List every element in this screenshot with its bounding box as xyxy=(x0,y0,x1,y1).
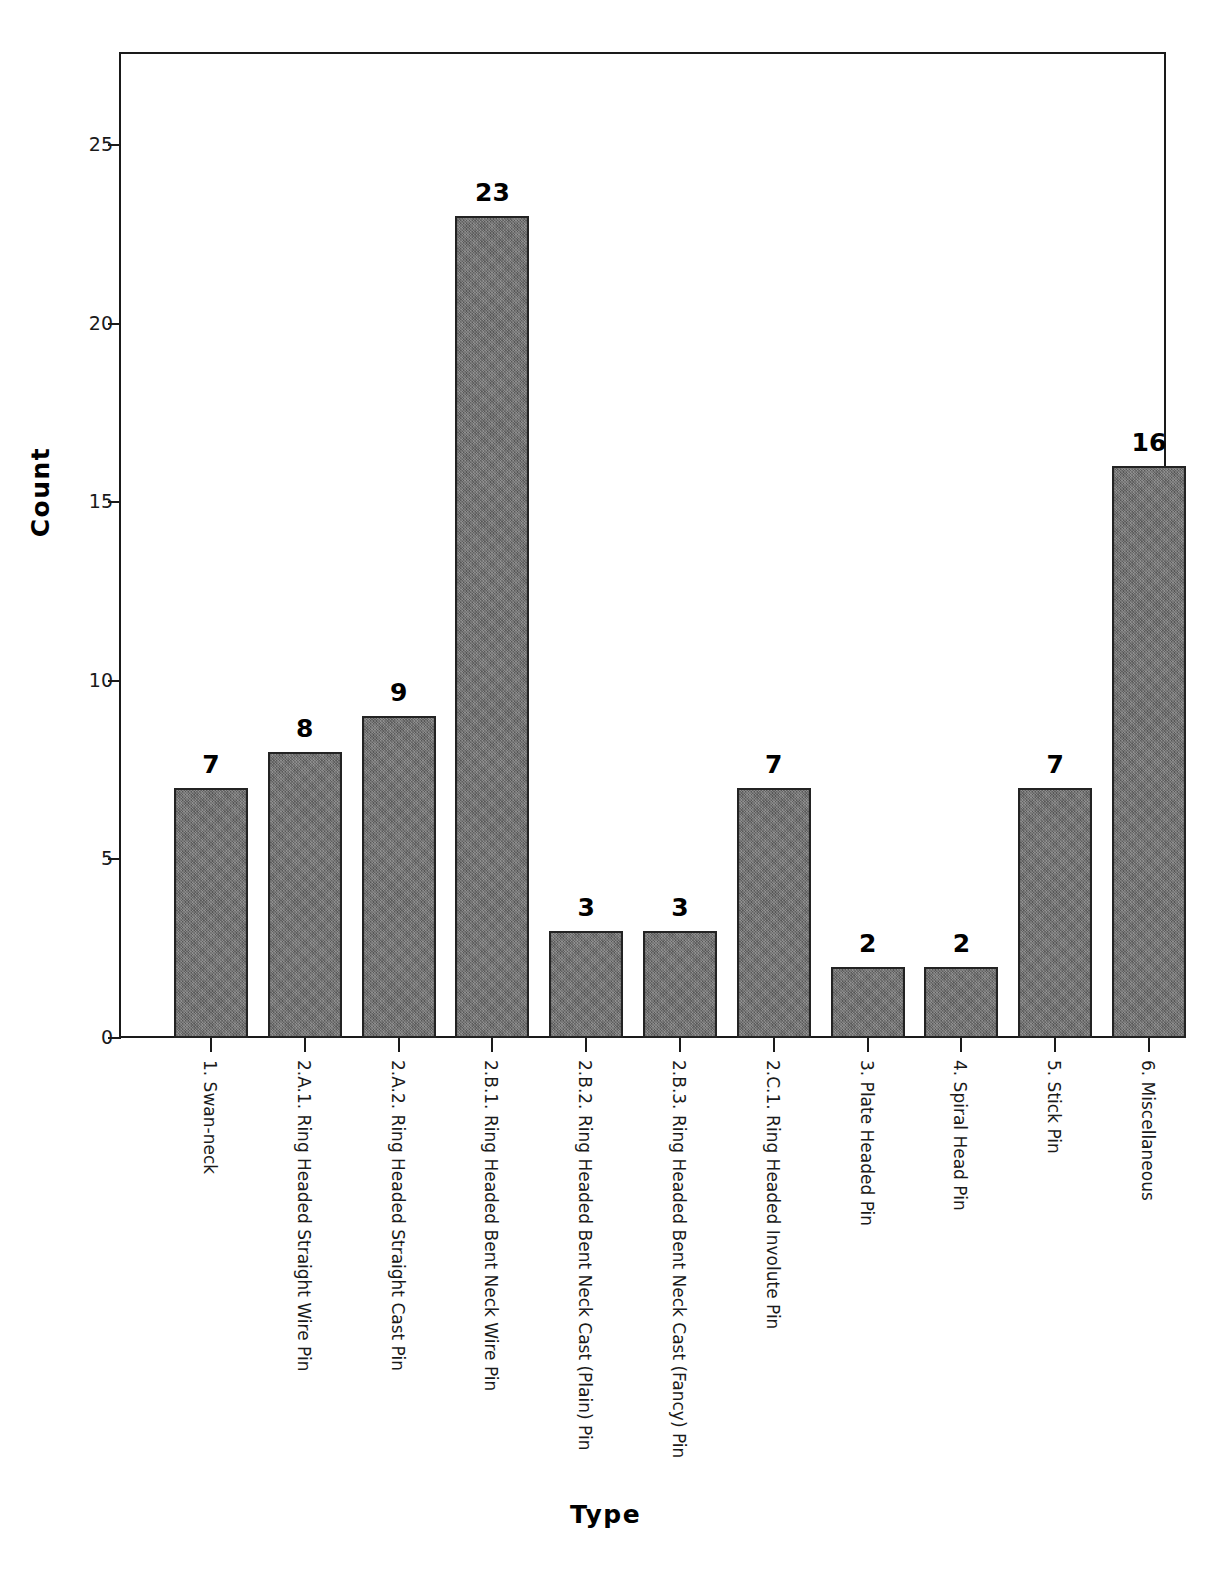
x-axis-category-label: 2.B.2. Ring Headed Bent Neck Cast (Plain… xyxy=(576,1060,593,1450)
y-axis-tick-label: 20 xyxy=(53,314,113,333)
bar[interactable] xyxy=(737,788,811,1038)
x-axis-category-label: 2.A.2. Ring Headed Straight Cast Pin xyxy=(389,1060,406,1371)
bar[interactable] xyxy=(174,788,248,1038)
x-axis-title: Type xyxy=(0,1500,1211,1529)
bar[interactable] xyxy=(643,931,717,1038)
bar-value-label: 7 xyxy=(1005,752,1105,777)
bar-value-label: 8 xyxy=(255,716,355,741)
bar-value-label: 7 xyxy=(161,752,261,777)
bar-value-label: 3 xyxy=(630,895,730,920)
x-axis-category-label: 1. Swan-neck xyxy=(201,1060,218,1174)
x-axis-category-label: 6. Miscellaneous xyxy=(1139,1060,1156,1201)
x-axis-tick xyxy=(585,1038,587,1052)
bar[interactable] xyxy=(924,967,998,1038)
bar[interactable] xyxy=(268,752,342,1038)
x-axis-category-label: 2.B.3. Ring Headed Bent Neck Cast (Fancy… xyxy=(670,1060,687,1458)
bar[interactable] xyxy=(1112,466,1186,1038)
bar[interactable] xyxy=(549,931,623,1038)
x-axis-tick xyxy=(304,1038,306,1052)
y-axis-tick-label: 5 xyxy=(53,849,113,868)
x-axis-tick xyxy=(960,1038,962,1052)
x-axis-tick xyxy=(210,1038,212,1052)
bar[interactable] xyxy=(455,216,529,1038)
chart-page: Count 0510152025 7892333722716 1. Swan-n… xyxy=(0,0,1211,1593)
x-axis-tick xyxy=(1148,1038,1150,1052)
bar[interactable] xyxy=(831,967,905,1038)
bar-value-label: 23 xyxy=(442,180,542,205)
x-axis-tick xyxy=(867,1038,869,1052)
x-axis-category-label: 5. Stick Pin xyxy=(1045,1060,1062,1154)
x-axis-category-label: 2.C.1. Ring Headed Involute Pin xyxy=(764,1060,781,1329)
bar-value-label: 2 xyxy=(911,931,1011,956)
bar-value-label: 16 xyxy=(1099,430,1199,455)
bar-value-label: 3 xyxy=(536,895,636,920)
y-axis-tick-label: 15 xyxy=(53,492,113,511)
x-axis-tick xyxy=(1054,1038,1056,1052)
x-axis-tick xyxy=(491,1038,493,1052)
y-axis-tick-label: 25 xyxy=(53,135,113,154)
y-axis-tick-label: 10 xyxy=(53,671,113,690)
x-axis-category-label: 4. Spiral Head Pin xyxy=(951,1060,968,1211)
bar[interactable] xyxy=(1018,788,1092,1038)
bar-value-label: 2 xyxy=(818,931,918,956)
bar-value-label: 9 xyxy=(349,680,449,705)
x-axis-category-label: 3. Plate Headed Pin xyxy=(858,1060,875,1226)
x-axis-tick xyxy=(773,1038,775,1052)
x-axis-tick xyxy=(398,1038,400,1052)
bar[interactable] xyxy=(362,716,436,1038)
x-axis-tick xyxy=(679,1038,681,1052)
bar-value-label: 7 xyxy=(724,752,824,777)
y-axis-tick-label: 0 xyxy=(53,1028,113,1047)
x-axis-category-label: 2.A.1. Ring Headed Straight Wire Pin xyxy=(295,1060,312,1371)
x-axis-category-label: 2.B.1. Ring Headed Bent Neck Wire Pin xyxy=(482,1060,499,1391)
